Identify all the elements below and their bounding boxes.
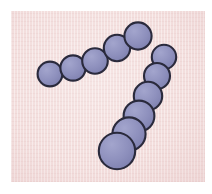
cell-chain-lower: [99, 45, 176, 169]
coccus-cell: [124, 22, 151, 49]
coccus-cell: [99, 133, 135, 169]
cell-canvas: [11, 11, 205, 182]
coccus-cell: [38, 62, 63, 87]
micrograph-figure: [0, 0, 212, 194]
cell-chain-upper: [38, 22, 152, 86]
stained-background-field: [11, 11, 205, 182]
